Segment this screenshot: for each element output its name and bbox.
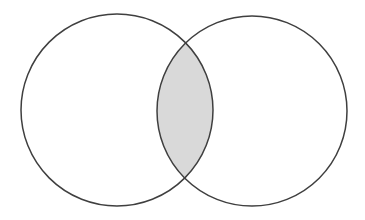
venn-diagram-figure (0, 0, 365, 220)
venn-diagram-canvas (0, 0, 365, 220)
